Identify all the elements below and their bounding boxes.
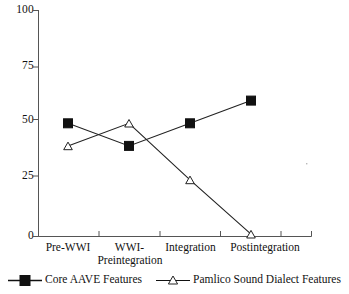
- legend-swatch-open-triangle: [156, 274, 190, 286]
- data-point-marker: [125, 141, 134, 150]
- series-line-pamlico-sound-dialect-features: [68, 123, 251, 234]
- legend-swatch-filled-square: [8, 274, 42, 286]
- data-point-marker: [125, 120, 134, 128]
- data-point-marker: [64, 119, 73, 128]
- x-axis-tick-label-wwi: WWI-: [99, 241, 160, 253]
- line-chart: 100 75 50 25 0: [0, 0, 349, 294]
- legend-label-core-aave-features: Core AAVE Features: [45, 274, 142, 286]
- legend-label-pamlico-sound-dialect-features: Pamlico Sound Dialect Features: [193, 274, 341, 286]
- data-point-marker: [247, 96, 256, 105]
- x-axis-tick-label-pre-wwi: Pre-WWI: [38, 241, 98, 253]
- series-line-core-aave-features: [68, 101, 251, 146]
- scan-speck: [306, 163, 307, 164]
- y-axis-ticks: [33, 11, 39, 237]
- x-axis-ticks: [39, 231, 312, 237]
- legend-entry-core-aave-features: Core AAVE Features: [8, 274, 142, 286]
- x-axis-tick-label-postintegration: Postintegration: [217, 241, 313, 253]
- x-axis-tick-label-preintegration: Preintegration: [93, 254, 167, 266]
- chart-legend: Core AAVE Features Pamlico Sound Dialect…: [0, 270, 349, 290]
- x-axis-tick-label-integration: Integration: [160, 241, 221, 253]
- series-markers-core-aave-features: [64, 96, 256, 150]
- legend-entry-pamlico-sound-dialect-features: Pamlico Sound Dialect Features: [156, 274, 341, 286]
- data-point-marker: [64, 142, 73, 150]
- data-point-marker: [186, 119, 195, 128]
